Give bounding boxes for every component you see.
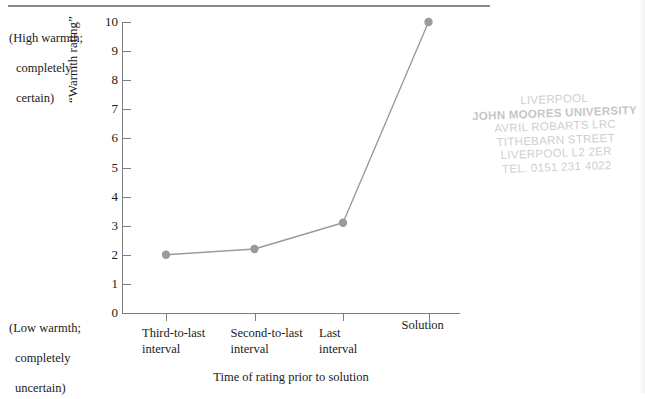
y-axis-tick-label: 1 bbox=[96, 277, 118, 290]
data-point-marker bbox=[339, 219, 347, 227]
y-axis-tick bbox=[123, 109, 131, 110]
x-axis-tick-label: Solution bbox=[402, 318, 444, 334]
top-horizontal-rule bbox=[8, 5, 490, 7]
series-markers bbox=[162, 18, 433, 259]
library-stamp: LIVERPOOL JOHN MOORES UNIVERSITY AVRIL R… bbox=[466, 90, 644, 178]
y-axis-tick bbox=[123, 138, 131, 139]
y-axis-tick-label: 10 bbox=[96, 15, 118, 28]
y-axis-tick bbox=[123, 51, 131, 52]
x-axis-tick-label: Second-to-last interval bbox=[231, 326, 303, 357]
y-axis-tick bbox=[123, 22, 131, 23]
y-axis-tick-label: 0 bbox=[96, 306, 118, 319]
low-anchor-line-3: uncertain) bbox=[9, 381, 115, 396]
y-axis-tick-label: 2 bbox=[96, 248, 118, 261]
x-axis-tick-label: Third-to-last interval bbox=[142, 326, 205, 357]
low-anchor-line-1: (Low warmth; bbox=[9, 321, 115, 336]
y-axis-title: “Warmth rating” bbox=[66, 0, 79, 103]
x-axis-line bbox=[122, 313, 460, 314]
data-point-marker bbox=[424, 18, 432, 26]
y-axis-tick bbox=[123, 226, 131, 227]
x-axis-title: Time of rating prior to solution bbox=[122, 370, 460, 384]
series-line bbox=[166, 22, 429, 255]
x-axis-tick-label: Last interval bbox=[319, 326, 357, 357]
data-point-marker bbox=[250, 245, 258, 253]
y-axis-tick-label: 8 bbox=[96, 73, 118, 86]
x-axis-tick bbox=[255, 314, 256, 321]
low-anchor-line-2: completely bbox=[9, 351, 115, 366]
data-point-marker bbox=[162, 251, 170, 259]
y-axis-tick-label: 6 bbox=[96, 131, 118, 144]
y-axis-tick bbox=[123, 284, 131, 285]
y-axis-tick bbox=[123, 80, 131, 81]
y-axis-tick-label: 7 bbox=[96, 102, 118, 115]
x-axis-tick bbox=[343, 314, 344, 321]
y-axis-tick bbox=[123, 255, 131, 256]
y-axis-tick bbox=[123, 197, 131, 198]
y-axis-tick-label: 4 bbox=[96, 190, 118, 203]
scan-page-edge bbox=[639, 0, 645, 394]
x-axis-tick bbox=[166, 314, 167, 321]
low-warmth-anchor-label: (Low warmth; completely uncertain) bbox=[9, 306, 115, 399]
y-axis-tick-label: 3 bbox=[96, 219, 118, 232]
y-axis-tick-label: 9 bbox=[96, 44, 118, 57]
y-axis-tick-label: 5 bbox=[96, 161, 118, 174]
y-axis-tick bbox=[123, 168, 131, 169]
